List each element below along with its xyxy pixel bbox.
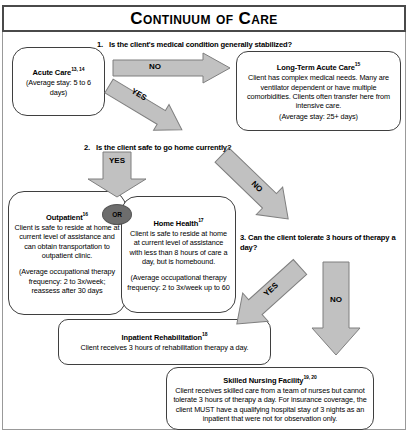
q3-no-label: NO [321, 295, 351, 304]
question-1-number: 1. [97, 40, 103, 49]
node-long-term-body: Client has complex medical needs. Many a… [242, 73, 395, 110]
node-outpatient-title: Outpatient16 [46, 211, 88, 222]
question-3-text: Can the client tolerate 3 hours of thera… [240, 233, 395, 252]
question-2: 2.Is the client safe to go home currentl… [84, 143, 354, 153]
q1-no-label: NO [140, 62, 170, 71]
page-title: Continuum of Care [130, 9, 277, 29]
or-connector: OR [102, 204, 132, 225]
question-2-text: Is the client safe to go home currently? [96, 143, 231, 152]
node-ref: 19, 20 [303, 374, 316, 380]
node-title-text: Skilled Nursing Facility [223, 375, 303, 384]
node-ref: 15 [355, 61, 360, 67]
node-ref: 16 [83, 211, 88, 217]
node-title-text: Inpatient Rehabilitation [122, 333, 203, 342]
question-3: 3.Can the client tolerate 3 hours of the… [240, 233, 409, 253]
node-title-text: Acute Care [33, 68, 72, 77]
question-1-text: Is the client's medical condition genera… [109, 40, 292, 49]
question-1: 1.Is the client's medical condition gene… [97, 40, 397, 50]
node-ref: 18 [202, 331, 207, 337]
node-acute-care-note: (Average stay: 5 to 6 days) [19, 78, 98, 97]
node-home-health-note: (Average occupational therapy frequency:… [127, 273, 230, 292]
node-ref: 17 [198, 217, 203, 223]
title-bar: Continuum of Care [2, 5, 406, 32]
node-inpatient-title: Inpatient Rehabilitation18 [122, 331, 208, 342]
node-inpatient-rehabilitation: Inpatient Rehabilitation18 Client receiv… [58, 319, 271, 365]
question-2-number: 2. [84, 143, 90, 152]
q2-yes-label: YES [102, 156, 132, 165]
node-skilled-nursing-facility: Skilled Nursing Facility19, 20 Client re… [166, 367, 374, 430]
node-home-health-title: Home Health17 [153, 217, 203, 228]
node-skilled-body: Client receives skilled care from a team… [173, 386, 367, 423]
node-long-term-acute-care: Long-Term Acute Care15 Client has comple… [236, 51, 401, 131]
node-long-term-note: (Average stay: 25+ days) [279, 112, 358, 121]
node-long-term-title: Long-Term Acute Care15 [277, 61, 360, 72]
node-acute-care: Acute Care13, 14 (Average stay: 5 to 6 d… [12, 47, 105, 116]
node-ref: 13, 14 [71, 66, 84, 72]
node-outpatient-body: Client is safe to reside at home at curr… [14, 223, 120, 260]
node-home-health-body: Client is safe to reside at home at curr… [127, 229, 230, 266]
node-title-text: Home Health [153, 218, 198, 227]
node-outpatient-note: (Average occupational therapy frequency:… [14, 267, 120, 295]
question-3-number: 3. [240, 233, 246, 242]
node-home-health: Home Health17 Client is safe to reside a… [121, 196, 236, 313]
node-title-text: Long-Term Acute Care [277, 63, 355, 72]
continuum-of-care-flowchart: Continuum of Care 1.Is the client's medi… [0, 0, 409, 432]
node-acute-care-title: Acute Care13, 14 [33, 66, 85, 77]
node-title-text: Outpatient [46, 212, 83, 221]
node-skilled-title: Skilled Nursing Facility19, 20 [223, 374, 316, 385]
node-inpatient-body: Client receives 3 hours of rehabilitatio… [81, 343, 249, 352]
or-label: OR [112, 211, 122, 218]
